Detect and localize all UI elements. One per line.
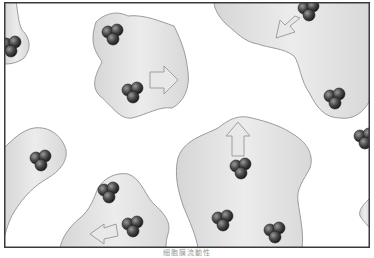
molecule-cluster-icon [354, 128, 370, 149]
membrane-region-right-edge [360, 198, 370, 228]
membrane-region-mid-left [4, 128, 66, 238]
figure-caption: 細胞膜流動性 [0, 247, 374, 257]
diagram-frame [4, 2, 370, 248]
